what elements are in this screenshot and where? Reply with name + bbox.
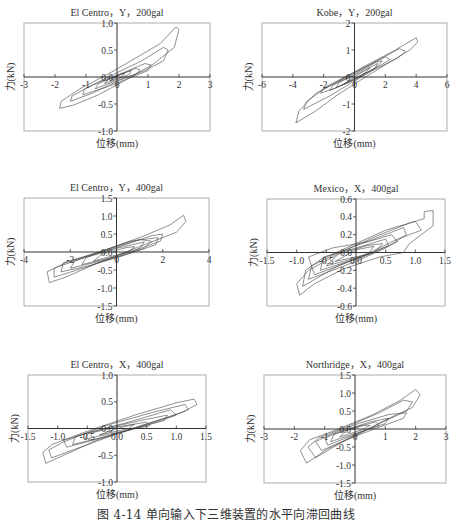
- x-tick-label: 2: [383, 80, 388, 90]
- y-tick-label: -1: [343, 100, 351, 110]
- hysteresis-figure: El Centro，Y，200gal-3-2-10123-1.0-0.50.00…: [0, 0, 452, 525]
- x-tick-label: -1: [321, 432, 329, 442]
- y-tick-label: 0.4: [340, 212, 352, 222]
- x-axis-label: 位移(mm): [333, 137, 375, 150]
- x-tick-label: 0: [352, 80, 357, 90]
- panel-title: El Centro，X，400gal: [70, 359, 163, 370]
- x-tick-label: -1.5: [20, 432, 35, 442]
- hysteresis-curves: [300, 389, 420, 463]
- y-tick-label: -1.5: [97, 302, 112, 312]
- x-tick-label: 4: [414, 80, 419, 90]
- x-tick-label: -2: [290, 432, 298, 442]
- hysteresis-loop: [60, 27, 179, 109]
- x-tick-label: 1: [146, 80, 151, 90]
- panel-title: Mexico，X，400gal: [314, 183, 399, 194]
- hysteresis-loop: [82, 242, 145, 265]
- y-tick-label: 0.5: [339, 407, 351, 417]
- x-tick-label: -1.0: [50, 432, 65, 442]
- x-tick-label: -3: [20, 80, 28, 90]
- x-tick-label: 0: [115, 80, 120, 90]
- x-tick-label: 2: [177, 80, 182, 90]
- x-tick-label: 6: [445, 80, 450, 90]
- x-tick-label: -1.5: [259, 256, 274, 266]
- x-tick-label: -2: [320, 80, 328, 90]
- y-tick-label: 0.0: [101, 424, 113, 434]
- y-tick-label: -1.0: [98, 127, 113, 137]
- x-tick-label: 3: [208, 80, 213, 90]
- y-tick-label: -1.5: [336, 479, 351, 489]
- hysteresis-panel-4: Mexico，X，400gal-1.5-1.0-0.50.00.51.01.5-…: [247, 183, 451, 325]
- x-tick-label: 0: [353, 432, 358, 442]
- y-tick-label: 1.0: [101, 212, 113, 222]
- y-tick-label: 0: [346, 73, 351, 83]
- y-tick-label: -0.6: [337, 302, 352, 312]
- hysteresis-panel-5: El Centro，X，400gal-1.5-1.0-0.50.00.51.01…: [8, 359, 212, 501]
- x-tick-label: 1.0: [170, 432, 182, 442]
- x-tick-label: -0.5: [80, 432, 95, 442]
- x-tick-label: 1.0: [409, 256, 421, 266]
- panel-title: Kobe，Y，200gal: [316, 7, 392, 18]
- hysteresis-panel-6: Northridge，X，400gal-3-2-10123-1.5-1.0-0.…: [244, 359, 449, 502]
- y-axis-label: 力(kN): [8, 414, 21, 443]
- x-tick-label: -1.0: [289, 256, 304, 266]
- y-tick-label: 0.5: [101, 46, 113, 56]
- panel-title: El Centro，Y，200gal: [70, 7, 163, 18]
- x-tick-label: -0.5: [319, 256, 334, 266]
- panel-title: El Centro，Y，400gal: [70, 182, 163, 193]
- x-tick-label: -6: [258, 80, 266, 90]
- y-tick-label: -0.5: [98, 451, 113, 461]
- x-tick-label: -3: [260, 432, 268, 442]
- y-axis-label: 力(kN): [244, 415, 257, 444]
- x-tick-label: 1.5: [439, 256, 451, 266]
- y-tick-label: 0.0: [339, 425, 351, 435]
- y-tick-label: -2: [343, 127, 351, 137]
- y-axis-label: 力(kN): [242, 63, 255, 92]
- x-axis-label: 位移(mm): [96, 137, 138, 150]
- y-tick-label: 1.5: [339, 371, 351, 381]
- hysteresis-panel-2: Kobe，Y，200gal-6-4-20246-2-1012位移(mm)力(kN…: [242, 7, 450, 150]
- x-tick-label: 0: [114, 255, 119, 265]
- x-axis-label: 位移(mm): [95, 312, 137, 325]
- x-tick-label: 2: [160, 255, 165, 265]
- x-tick-label: -2: [51, 80, 59, 90]
- x-axis-label: 位移(mm): [335, 312, 377, 325]
- y-tick-label: -0.5: [336, 443, 351, 453]
- y-tick-label: -0.2: [337, 266, 352, 276]
- figure-caption: 图 4-14 单向输入下三维装置的水平向滞回曲线: [0, 505, 452, 522]
- y-tick-label: -1.0: [336, 461, 351, 471]
- y-tick-label: 1.0: [101, 19, 113, 29]
- y-tick-label: 0.2: [340, 230, 352, 240]
- y-tick-label: -1.0: [98, 478, 113, 488]
- y-tick-label: 0.5: [101, 230, 113, 240]
- y-axis-label: 力(kN): [4, 238, 17, 267]
- y-tick-label: -1.0: [97, 284, 112, 294]
- y-tick-label: 0.0: [340, 248, 352, 258]
- y-tick-label: 1: [346, 46, 351, 56]
- x-axis-label: 位移(mm): [334, 489, 376, 502]
- x-tick-label: 4: [207, 255, 212, 265]
- hysteresis-panel-1: El Centro，Y，200gal-3-2-10123-1.0-0.50.00…: [4, 7, 213, 150]
- y-tick-label: 0.5: [101, 397, 113, 407]
- hysteresis-loop: [303, 221, 422, 286]
- y-tick-label: -0.5: [98, 100, 113, 110]
- y-tick-label: 0.0: [101, 73, 113, 83]
- y-tick-label: 0.0: [101, 248, 113, 258]
- x-tick-label: 0.5: [380, 256, 392, 266]
- x-axis-label: 位移(mm): [96, 488, 138, 501]
- x-tick-label: -4: [20, 255, 28, 265]
- y-tick-label: 1.0: [101, 371, 113, 381]
- x-tick-label: 1: [383, 432, 388, 442]
- x-tick-label: -4: [289, 80, 297, 90]
- y-tick-label: -0.4: [337, 284, 352, 294]
- x-tick-label: 1.5: [200, 432, 212, 442]
- hysteresis-panel-3: El Centro，Y，400gal-4-2024-1.5-1.0-0.50.0…: [4, 182, 212, 325]
- y-axis-label: 力(kN): [247, 238, 260, 267]
- y-axis-label: 力(kN): [4, 63, 17, 92]
- x-tick-label: -1: [82, 80, 90, 90]
- x-tick-label: -2: [66, 255, 74, 265]
- panel-title: Northridge，X，400gal: [306, 359, 405, 370]
- x-tick-label: 0.5: [141, 432, 153, 442]
- hysteresis-curves: [60, 27, 179, 109]
- y-tick-label: 1.0: [339, 389, 351, 399]
- x-tick-label: 2: [413, 432, 418, 442]
